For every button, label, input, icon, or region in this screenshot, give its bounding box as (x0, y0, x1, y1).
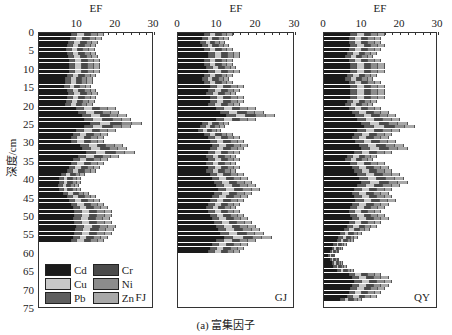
segment-cd (39, 166, 70, 169)
segment-pb (356, 140, 363, 143)
depth-bar (178, 151, 240, 154)
segment-cr (238, 232, 247, 235)
segment-ni (116, 151, 126, 154)
segment-zn (252, 228, 260, 231)
segment-ni (103, 155, 111, 158)
segment-zn (378, 92, 385, 95)
segment-cu (77, 136, 84, 139)
segment-ni (383, 118, 391, 121)
segment-zn (375, 37, 381, 40)
segment-zn (381, 203, 388, 206)
x-tick-label: 10 (356, 17, 367, 29)
segment-zn (92, 92, 98, 95)
segment-ni (395, 125, 405, 128)
depth-bar (178, 48, 233, 51)
panel-fj: FJCdCrCuNiPbZn (38, 32, 153, 308)
segment-pb (77, 107, 84, 110)
segment-cr (365, 33, 372, 36)
segment-cd (324, 33, 351, 36)
segment-cu (219, 144, 227, 147)
segment-cd (178, 41, 201, 44)
segment-zn (122, 125, 131, 128)
segment-zn (375, 107, 381, 110)
depth-bar (39, 158, 108, 161)
segment-cu (82, 232, 90, 235)
segment-cr (103, 125, 112, 128)
segment-cu (75, 166, 82, 169)
segment-cr (90, 210, 97, 213)
y-tick-label: 15 (0, 81, 34, 93)
segment-cr (365, 162, 372, 165)
segment-zn (231, 66, 237, 69)
segment-cu (215, 55, 222, 58)
segment-ni (371, 89, 378, 92)
segment-cr (380, 122, 389, 125)
segment-cu (224, 225, 233, 228)
segment-cr (365, 70, 372, 73)
segment-zn (118, 147, 127, 150)
depth-bar (39, 140, 104, 143)
segment-cd (324, 217, 353, 220)
segment-cr (365, 214, 372, 217)
segment-cu (77, 162, 84, 165)
segment-zn (368, 158, 373, 161)
segment-cr (233, 239, 241, 242)
segment-pb (358, 118, 366, 121)
segment-cu (80, 236, 88, 239)
segment-zn (224, 77, 229, 80)
segment-zn (381, 166, 388, 169)
segment-pb (358, 184, 366, 187)
segment-cr (227, 177, 234, 180)
y-tick-label: 60 (0, 247, 34, 259)
segment-cu (217, 173, 224, 176)
segment-ni (231, 199, 238, 202)
y-tick-label: 65 (0, 265, 34, 277)
segment-zn (87, 81, 92, 84)
segment-cu (229, 111, 238, 114)
segment-zn (381, 136, 388, 139)
segment-cu (75, 63, 82, 66)
segment-cd (39, 232, 75, 235)
segment-cd (39, 214, 75, 217)
depth-bar (324, 192, 389, 195)
segment-zn (91, 74, 97, 77)
segment-cd (324, 184, 358, 187)
bars-gj (178, 33, 293, 307)
segment-cd (39, 147, 83, 150)
segment-cr (224, 199, 231, 202)
segment-cd (178, 118, 217, 121)
segment-cd (324, 70, 351, 73)
segment-cu (357, 70, 364, 73)
depth-bar (39, 66, 100, 69)
segment-cu (355, 59, 362, 62)
segment-zn (224, 44, 229, 47)
segment-cu (362, 133, 370, 136)
depth-bar (178, 77, 229, 80)
segment-cd (39, 81, 66, 84)
segment-cr (370, 195, 378, 198)
depth-bar (324, 188, 392, 191)
segment-zn (398, 181, 407, 184)
depth-bar (178, 155, 236, 158)
segment-zn (375, 41, 381, 44)
segment-ni (234, 217, 241, 220)
segment-cd (39, 228, 76, 231)
depth-bar (39, 89, 96, 92)
depth-bar (324, 221, 381, 224)
segment-ni (371, 92, 378, 95)
segment-zn (354, 236, 358, 239)
depth-bar (178, 243, 248, 246)
segment-cu (86, 111, 95, 114)
segment-cu (75, 66, 82, 69)
segment-cd (39, 195, 68, 198)
depth-bar (39, 100, 95, 103)
segment-zn (227, 74, 232, 77)
segment-zn (375, 210, 381, 213)
segment-cd (39, 177, 60, 180)
depth-bar (324, 214, 385, 217)
segment-cr (372, 114, 380, 117)
depth-bar (324, 291, 381, 294)
segment-zn (375, 273, 381, 276)
x-tick-label: 10 (71, 17, 82, 29)
segment-zn (375, 221, 381, 224)
